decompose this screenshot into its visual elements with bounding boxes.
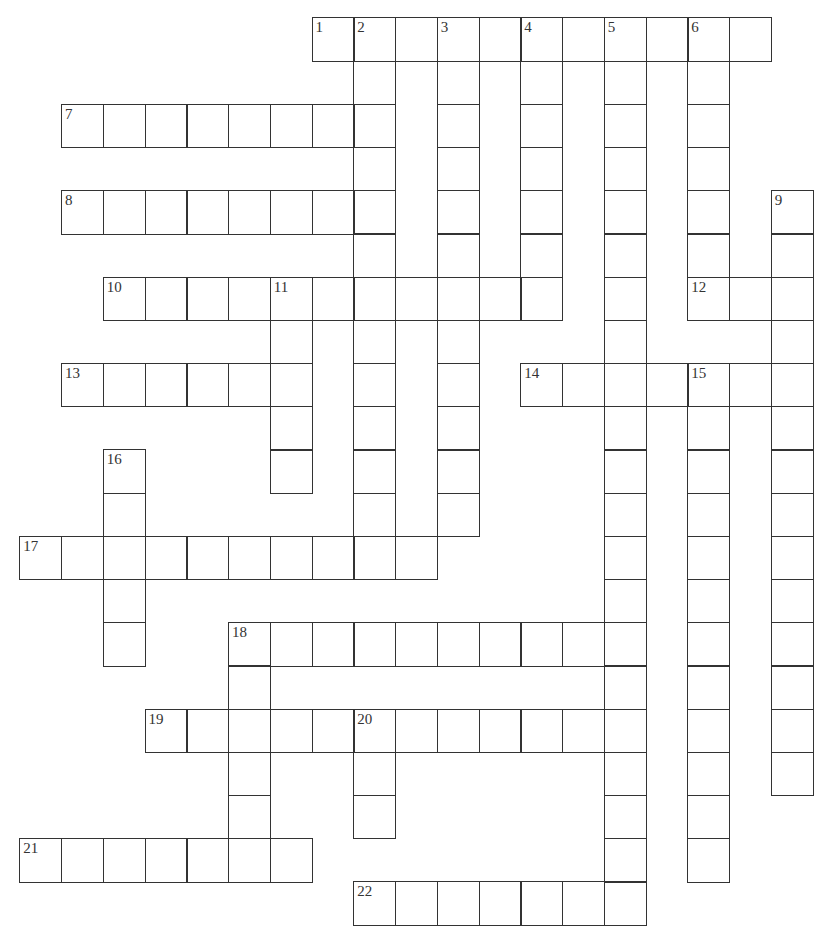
cell-letter-input[interactable]: [271, 537, 312, 580]
grid-cell[interactable]: [562, 709, 605, 754]
grid-cell[interactable]: [604, 881, 647, 926]
cell-letter-input[interactable]: [104, 278, 145, 321]
grid-cell[interactable]: [312, 104, 355, 149]
cell-letter-input[interactable]: [521, 18, 562, 61]
grid-cell[interactable]: [687, 147, 730, 192]
cell-letter-input[interactable]: [688, 105, 729, 148]
cell-letter-input[interactable]: [521, 623, 562, 666]
cell-letter-input[interactable]: [480, 623, 521, 666]
grid-cell[interactable]: [312, 536, 355, 581]
grid-cell[interactable]: [687, 579, 730, 624]
cell-letter-input[interactable]: [229, 796, 270, 839]
grid-cell[interactable]: [687, 493, 730, 538]
grid-cell[interactable]: [520, 147, 563, 192]
cell-letter-input[interactable]: [772, 580, 813, 623]
grid-cell[interactable]: [604, 233, 647, 278]
grid-cell[interactable]: 12: [687, 277, 730, 322]
grid-cell[interactable]: 15: [687, 363, 730, 408]
cell-letter-input[interactable]: [688, 191, 729, 234]
grid-cell[interactable]: [186, 104, 229, 149]
cell-letter-input[interactable]: [354, 148, 395, 191]
grid-cell[interactable]: [729, 17, 772, 62]
grid-cell[interactable]: [353, 104, 396, 149]
cell-letter-input[interactable]: [187, 105, 228, 148]
cell-letter-input[interactable]: [563, 710, 604, 753]
cell-letter-input[interactable]: [438, 148, 479, 191]
cell-letter-input[interactable]: [521, 882, 562, 925]
cell-letter-input[interactable]: [354, 105, 395, 148]
cell-letter-input[interactable]: [730, 18, 771, 61]
cell-letter-input[interactable]: [354, 710, 395, 753]
grid-cell[interactable]: [437, 104, 480, 149]
cell-letter-input[interactable]: [688, 623, 729, 666]
grid-cell[interactable]: [103, 838, 146, 883]
grid-cell[interactable]: [604, 579, 647, 624]
cell-letter-input[interactable]: [688, 62, 729, 105]
cell-letter-input[interactable]: [605, 882, 646, 925]
grid-cell[interactable]: [604, 449, 647, 494]
cell-letter-input[interactable]: [313, 623, 354, 666]
cell-letter-input[interactable]: [271, 321, 312, 364]
grid-cell[interactable]: [312, 622, 355, 667]
grid-cell[interactable]: [604, 795, 647, 840]
grid-cell[interactable]: [228, 190, 271, 235]
cell-letter-input[interactable]: [62, 364, 103, 407]
grid-cell[interactable]: [437, 320, 480, 365]
cell-letter-input[interactable]: [229, 278, 270, 321]
grid-cell[interactable]: [687, 61, 730, 106]
cell-letter-input[interactable]: [313, 537, 354, 580]
grid-cell[interactable]: 14: [520, 363, 563, 408]
cell-letter-input[interactable]: [480, 882, 521, 925]
cell-letter-input[interactable]: [563, 623, 604, 666]
grid-cell[interactable]: 11: [270, 277, 313, 322]
grid-cell[interactable]: 16: [103, 449, 146, 494]
grid-cell[interactable]: [395, 709, 438, 754]
cell-letter-input[interactable]: [187, 278, 228, 321]
cell-letter-input[interactable]: [772, 364, 813, 407]
cell-letter-input[interactable]: [688, 494, 729, 537]
cell-letter-input[interactable]: [146, 364, 187, 407]
cell-letter-input[interactable]: [772, 191, 813, 234]
grid-cell[interactable]: [395, 622, 438, 667]
grid-cell[interactable]: [562, 622, 605, 667]
grid-cell[interactable]: [687, 665, 730, 710]
cell-letter-input[interactable]: [772, 753, 813, 796]
cell-letter-input[interactable]: [354, 537, 395, 580]
cell-letter-input[interactable]: [772, 666, 813, 709]
grid-cell[interactable]: [604, 752, 647, 797]
grid-cell[interactable]: [604, 320, 647, 365]
cell-letter-input[interactable]: [438, 494, 479, 537]
grid-cell[interactable]: [520, 622, 563, 667]
grid-cell[interactable]: [353, 406, 396, 451]
grid-cell[interactable]: [646, 17, 689, 62]
grid-cell[interactable]: 9: [771, 190, 814, 235]
grid-cell[interactable]: [520, 190, 563, 235]
cell-letter-input[interactable]: [605, 18, 646, 61]
grid-cell[interactable]: [771, 665, 814, 710]
grid-cell[interactable]: [353, 277, 396, 322]
cell-letter-input[interactable]: [521, 278, 562, 321]
grid-cell[interactable]: [353, 147, 396, 192]
grid-cell[interactable]: [270, 104, 313, 149]
cell-letter-input[interactable]: [271, 105, 312, 148]
cell-letter-input[interactable]: [104, 839, 145, 882]
grid-cell[interactable]: [353, 622, 396, 667]
grid-cell[interactable]: [353, 61, 396, 106]
cell-letter-input[interactable]: [187, 364, 228, 407]
grid-cell[interactable]: 22: [353, 881, 396, 926]
grid-cell[interactable]: 7: [61, 104, 104, 149]
cell-letter-input[interactable]: [688, 537, 729, 580]
cell-letter-input[interactable]: [396, 18, 437, 61]
grid-cell[interactable]: [228, 665, 271, 710]
grid-cell[interactable]: [186, 190, 229, 235]
cell-letter-input[interactable]: [271, 407, 312, 450]
grid-cell[interactable]: [771, 579, 814, 624]
grid-cell[interactable]: 20: [353, 709, 396, 754]
cell-letter-input[interactable]: [146, 839, 187, 882]
grid-cell[interactable]: 10: [103, 277, 146, 322]
grid-cell[interactable]: [395, 277, 438, 322]
cell-letter-input[interactable]: [438, 191, 479, 234]
cell-letter-input[interactable]: [187, 191, 228, 234]
cell-letter-input[interactable]: [104, 191, 145, 234]
cell-letter-input[interactable]: [313, 105, 354, 148]
